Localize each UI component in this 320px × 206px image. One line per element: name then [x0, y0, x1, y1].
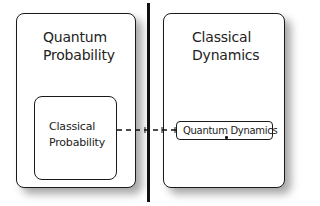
- quantum-probability-label-line2: Probability: [43, 46, 115, 64]
- vertical-divider-line: [147, 3, 150, 202]
- classical-probability-label-line1: Classical: [49, 119, 105, 135]
- dashed-connector: [117, 126, 177, 134]
- quantum-dynamics-label: Quantum Dynamics: [183, 123, 277, 138]
- classical-dynamics-label-line1: Classical: [192, 28, 259, 46]
- classical-probability-box: Classical Probability: [34, 96, 117, 180]
- classical-dynamics-label: Classical Dynamics: [192, 28, 259, 64]
- quantum-dynamics-box: Quantum Dynamics: [176, 121, 273, 140]
- point-marker-icon: [225, 136, 228, 139]
- quantum-probability-label-line1: Quantum: [43, 28, 115, 46]
- classical-probability-label: Classical Probability: [49, 119, 105, 151]
- quantum-probability-label: Quantum Probability: [43, 28, 115, 64]
- classical-dynamics-panel: Classical Dynamics: [163, 13, 285, 188]
- classical-dynamics-label-line2: Dynamics: [192, 46, 259, 64]
- classical-probability-label-line2: Probability: [49, 135, 105, 151]
